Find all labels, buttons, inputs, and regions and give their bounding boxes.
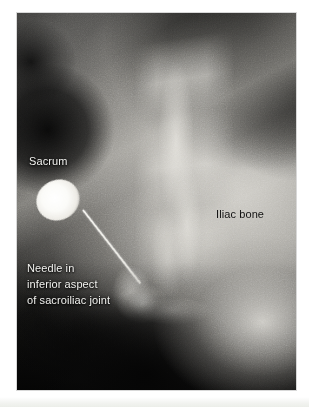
annotation-needle-line2: inferior aspect [27, 276, 110, 292]
page-edge-band [0, 397, 309, 407]
annotation-iliac-bone-text: Iliac bone [216, 208, 264, 220]
needle-hub [29, 172, 87, 228]
radiograph-figure: Sacrum Needle in inferior aspect of sacr… [0, 0, 309, 407]
annotation-iliac-bone: Iliac bone [216, 206, 264, 222]
annotation-sacrum: Sacrum [29, 153, 68, 169]
annotation-needle-line3: of sacroiliac joint [27, 292, 110, 308]
annotation-needle: Needle in inferior aspect of sacroiliac … [27, 260, 110, 308]
annotation-needle-line1: Needle in [27, 260, 110, 276]
xray-image: Sacrum Needle in inferior aspect of sacr… [17, 13, 296, 390]
annotation-sacrum-text: Sacrum [29, 155, 68, 167]
